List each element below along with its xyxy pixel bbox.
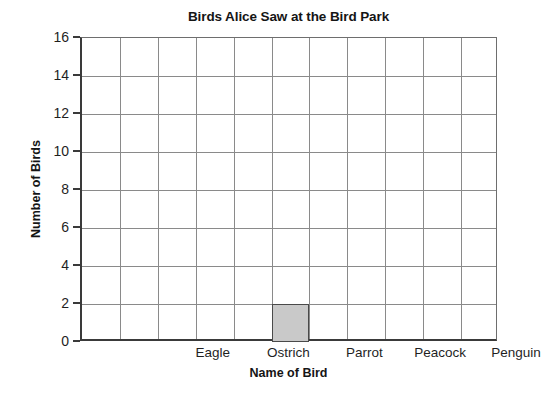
y-tick-label: 2 [43,295,69,311]
y-tick-label: 16 [43,29,69,45]
y-tick-label: 0 [43,333,69,349]
y-tick-label: 6 [43,219,69,235]
y-tick-label: 10 [43,143,69,159]
y-tick-mark [73,112,80,114]
grid-line-horizontal [82,114,496,115]
y-tick-mark [73,36,80,38]
y-tick-label: 8 [43,181,69,197]
grid-line-horizontal [82,152,496,153]
y-tick-label: 12 [43,105,69,121]
x-axis-title: Name of Bird [80,366,497,380]
grid-line-vertical [234,38,235,339]
grid-line-vertical [385,38,386,339]
grid-line-vertical [272,38,273,339]
grid-line-vertical [120,38,121,339]
bar-ostrich [272,304,310,342]
y-tick-label: 14 [43,67,69,83]
x-tick-label-penguin: Penguin [491,345,541,360]
plot-area [80,37,497,341]
x-tick-label-peacock: Peacock [414,345,466,360]
x-tick-label-eagle: Eagle [195,345,230,360]
y-tick-label: 4 [43,257,69,273]
grid-line-vertical [309,38,310,339]
grid-line-horizontal [82,228,496,229]
grid-line-horizontal [82,76,496,77]
y-tick-mark [73,264,80,266]
grid-line-vertical [196,38,197,339]
grid-line-vertical [423,38,424,339]
y-tick-mark [73,74,80,76]
chart-title: Birds Alice Saw at the Bird Park [80,9,497,24]
grid-line-vertical [158,38,159,339]
y-tick-mark [73,340,80,342]
grid-line-horizontal [82,266,496,267]
y-tick-mark [73,188,80,190]
y-tick-mark [73,302,80,304]
grid-line-vertical [461,38,462,339]
grid-line-vertical [347,38,348,339]
grid-line-horizontal [82,190,496,191]
x-tick-label-parrot: Parrot [346,345,383,360]
x-tick-label-ostrich: Ostrich [267,345,310,360]
y-axis-title: Number of Birds [29,140,43,238]
y-tick-mark [73,150,80,152]
y-tick-mark [73,226,80,228]
